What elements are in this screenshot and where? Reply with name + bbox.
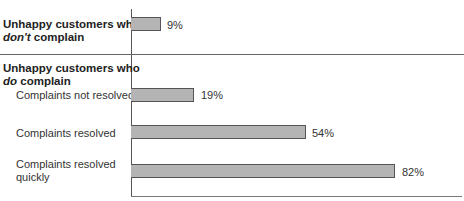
group-label-line2: do complain	[3, 75, 140, 88]
group-label-rest: complain	[17, 75, 71, 87]
group-label-emphasis: don't	[3, 31, 31, 43]
category-label-resolved: Complaints resolved	[16, 127, 116, 140]
group-label-line2: don't complain	[3, 31, 140, 44]
group-label-line1: Unhappy customers who	[3, 62, 140, 75]
group-label-line1: Unhappy customers who	[3, 18, 140, 31]
bar-dont-complain	[131, 17, 161, 31]
category-label-line2: quickly	[16, 171, 116, 184]
bar-not-resolved	[131, 88, 194, 102]
group-label-dont-complain: Unhappy customers who don't complain	[3, 18, 140, 44]
group-label-rest: complain	[31, 31, 85, 43]
category-label-resolved-quickly: Complaints resolved quickly	[16, 158, 116, 184]
category-label-line1: Complaints resolved	[16, 158, 116, 171]
value-label-dont-complain: 9%	[167, 19, 183, 31]
value-label-resolved: 54%	[312, 127, 334, 139]
value-label-resolved-quickly: 82%	[402, 166, 424, 178]
bar-resolved-quickly	[131, 164, 395, 178]
group-label-emphasis: do	[3, 75, 17, 87]
category-label-not-resolved: Complaints not resolved	[16, 89, 134, 102]
group-separator	[0, 54, 464, 55]
value-label-not-resolved: 19%	[201, 89, 223, 101]
bar-resolved	[131, 125, 306, 139]
x-axis-baseline	[131, 196, 462, 197]
group-label-do-complain: Unhappy customers who do complain	[3, 62, 140, 88]
